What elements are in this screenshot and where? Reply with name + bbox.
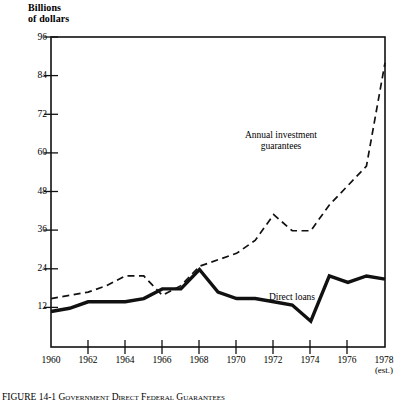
series-label-direct-loans: Direct loans bbox=[252, 292, 332, 303]
figure-caption: FIGURE 14-1 Government Direct Federal Gu… bbox=[2, 391, 409, 403]
figure-container: Billions of dollars 96 84 72 60 48 36 24… bbox=[0, 0, 409, 403]
series-line-direct-loans bbox=[51, 270, 385, 322]
series-line-annual-investment-guarantees bbox=[51, 63, 385, 299]
plot-area bbox=[0, 0, 409, 403]
series-label-annual-investment-guarantees: Annual investment guarantees bbox=[226, 130, 336, 152]
